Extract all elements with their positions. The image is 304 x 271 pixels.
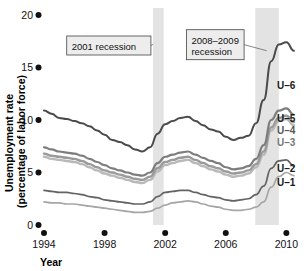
series-label-u-5: U–5 [277,113,296,124]
x-tick-label: 2010 [275,238,299,250]
x-tick-marker [283,230,289,236]
y-tick-label: 20 [21,9,33,21]
series-label-u-4: U–4 [277,125,296,136]
x-tick-marker [223,230,229,236]
y-tick-label: 15 [21,61,33,73]
y-tick-marker [36,222,42,228]
annotation-callouts: 2001 recession2008–2009recession [67,30,267,60]
y-axis-title-line1: Unemployment rate [3,94,15,192]
callout-label: 2008–2009 [191,35,239,46]
y-axis-title-line2: (percentage of labor force) [15,75,27,208]
x-tick-marker [102,230,108,236]
y-tick-marker [36,12,42,18]
series-label-u-6: U–6 [277,80,296,91]
x-tick-marker [162,230,168,236]
x-tick-label: 1998 [93,238,117,250]
y-tick-label: 0 [27,219,33,231]
y-tick-marker [36,65,42,71]
x-tick-label: 2006 [214,238,238,250]
y-tick-marker [36,170,42,176]
series-label-u-3: U–3 [277,137,296,148]
series-label-u-1: U–1 [277,177,296,188]
callout-label: recession [191,46,232,57]
series-end-labels: U–6U–5U–4U–3U–2U–1 [277,80,296,188]
x-tick-label: 1994 [32,238,56,250]
y-tick-marker [36,117,42,123]
x-tick-marker [41,230,47,236]
series-label-u-2: U–2 [277,163,296,174]
x-tick-label: 2002 [154,238,178,250]
recession-band [153,8,164,225]
x-axis-title: Year [40,256,62,268]
callout-label: 2001 recession [72,41,136,52]
y-tick-label: 5 [27,166,33,178]
chart-svg: 0510152019941998200220062010 U–6U–5U–4U–… [0,0,304,271]
unemployment-rate-chart: 0510152019941998200220062010 U–6U–5U–4U–… [0,0,304,271]
